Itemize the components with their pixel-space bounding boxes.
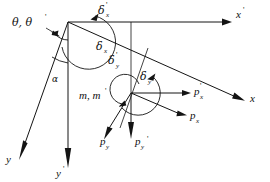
- angle-label-theta-prime-mark: ': [45, 13, 47, 22]
- force-label-px-prime-mark: ': [200, 82, 202, 91]
- force-label-py: p y: [99, 135, 110, 151]
- angle-label-alpha: α: [52, 74, 58, 84]
- vector-diagram-figure: x ' x y ' y θ, θ ' α δ x ': [0, 0, 270, 182]
- angle-label-theta: θ, θ ': [12, 13, 47, 29]
- force-label-py-prime-subscript: y: [140, 143, 145, 151]
- displacement-label-delta-x: δ x: [96, 40, 108, 55]
- force-label-px: p x: [189, 109, 200, 125]
- force-label-py-prime: p y ': [134, 135, 149, 151]
- displacement-label-delta-x-prime: δ x ': [98, 1, 110, 19]
- force-arrow-px: [131, 93, 187, 116]
- axis-label-y-prime: y ': [55, 165, 65, 179]
- construction-line-oblique: [120, 48, 148, 128]
- axis-label-x: x: [249, 92, 255, 104]
- force-label-py-prime-symbol: p: [134, 135, 141, 147]
- delta-y-prime-mark: ': [116, 51, 118, 60]
- delta-y-symbol: δ: [140, 70, 147, 83]
- delta-y-prime-symbol: δ: [108, 54, 115, 67]
- arc-moment-m: [110, 74, 139, 107]
- displacement-label-delta-y-prime: δ y ': [108, 51, 120, 70]
- axis-label-y-prime-mark: ': [63, 165, 65, 174]
- moment-label-m-text: m, m: [79, 89, 100, 101]
- displacement-label-delta-y: δ y: [140, 70, 152, 86]
- delta-x-prime-symbol: δ: [98, 4, 105, 17]
- force-label-px-subscript: x: [195, 117, 200, 125]
- force-label-py-subscript: y: [105, 143, 110, 151]
- moment-label-m-prime-mark: ': [105, 87, 107, 96]
- moment-label-m: m, m ': [79, 87, 107, 101]
- axis-label-x-prime: x ': [235, 6, 245, 20]
- force-label-py-prime-mark: ': [147, 135, 149, 144]
- axis-y: [19, 22, 68, 160]
- axis-y-prime: [65, 22, 71, 168]
- axis-label-x-prime-mark: ': [243, 6, 245, 15]
- force-arrow-py: [104, 93, 131, 140]
- axis-label-y-text: y: [5, 153, 11, 165]
- force-label-py-symbol: p: [99, 135, 106, 147]
- force-label-px-prime-subscript: x: [199, 93, 204, 101]
- axis-label-y: y: [5, 153, 11, 165]
- force-arrow-px-prime: [131, 90, 191, 96]
- axis-label-x-prime-text: x: [235, 8, 241, 20]
- delta-y-prime-subscript: y: [115, 62, 120, 70]
- delta-x-symbol: δ: [96, 40, 103, 53]
- force-label-px-prime: p x ': [193, 82, 204, 101]
- delta-x-prime-subscript: x: [105, 11, 110, 19]
- axis-label-x-text: x: [249, 92, 255, 104]
- force-arrow-py-prime: [128, 93, 134, 139]
- axis-label-y-prime-text: y: [55, 167, 61, 179]
- delta-x-prime-mark: ': [106, 1, 108, 10]
- angle-label-alpha-text: α: [52, 74, 58, 84]
- angle-label-theta-text: θ, θ: [12, 16, 33, 29]
- vector-diagram-canvas: x ' x y ' y θ, θ ' α δ x ': [0, 0, 270, 182]
- force-label-px-symbol: p: [189, 109, 196, 121]
- force-label-px-prime-symbol: p: [193, 85, 200, 97]
